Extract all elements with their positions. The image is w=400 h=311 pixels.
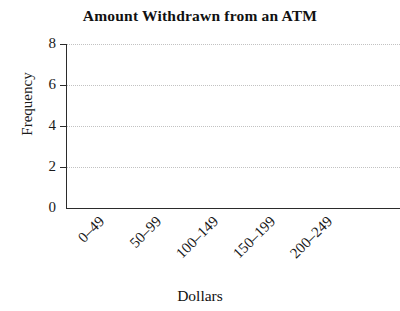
gridline-4 [66,126,400,127]
y-axis-title: Frequency [19,29,35,179]
y-tick-mark-2 [60,167,66,168]
y-tick-label-0: 0 [12,200,56,215]
y-tick-mark-8 [60,44,66,45]
x-axis-line [66,208,400,209]
y-tick-mark-4 [60,126,66,127]
chart-title: Amount Withdrawn from an ATM [0,6,400,25]
gridline-2 [66,167,400,168]
plot-area [66,44,400,208]
gridline-6 [66,85,400,86]
y-tick-mark-6 [60,85,66,86]
y-axis-line [66,44,67,209]
chart-figure: Amount Withdrawn from an ATM 8 6 4 2 0 F… [0,0,400,311]
gridline-8 [66,44,400,45]
